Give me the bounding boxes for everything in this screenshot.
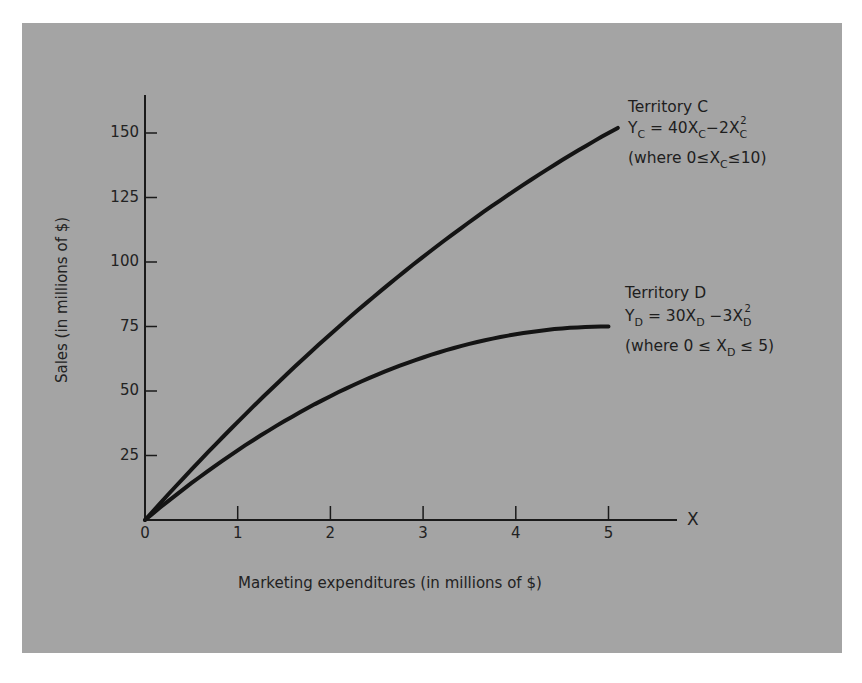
y-axis-title: Sales (in millions of $) (53, 217, 71, 383)
y-tick-label: 150 (99, 123, 139, 141)
territory-d-curve (145, 327, 609, 521)
x-axis-end-label: X (687, 509, 699, 529)
x-tick-label: 3 (413, 524, 433, 542)
territory-d-equation: YD = 30XD −3XD2 (625, 307, 774, 332)
y-tick-label: 25 (99, 446, 139, 464)
x-tick-label: 5 (599, 524, 619, 542)
y-tick-label: 100 (99, 252, 139, 270)
x-tick-marks (238, 506, 609, 520)
territory-d-title: Territory D (625, 284, 774, 302)
territory-d-domain: (where 0 ≤ XD ≤ 5) (625, 337, 774, 362)
territory-c-equation: YC = 40XC−2XC2 (628, 119, 767, 144)
x-tick-label: 4 (506, 524, 526, 542)
territory-c-annotation: Territory C YC = 40XC−2XC2 (where 0≤XC≤1… (628, 98, 767, 174)
y-tick-label: 125 (99, 188, 139, 206)
x-tick-label: 1 (228, 524, 248, 542)
territory-c-title: Territory C (628, 98, 767, 116)
territory-c-curve (145, 128, 618, 520)
x-axis-title: Marketing expenditures (in millions of $… (238, 574, 542, 592)
y-tick-label: 75 (99, 317, 139, 335)
y-tick-marks (145, 133, 157, 456)
y-tick-label: 50 (99, 381, 139, 399)
territory-c-domain: (where 0≤XC≤10) (628, 149, 767, 174)
territory-d-annotation: Territory D YD = 30XD −3XD2 (where 0 ≤ X… (625, 284, 774, 362)
x-tick-label: 0 (135, 524, 155, 542)
x-tick-label: 2 (320, 524, 340, 542)
